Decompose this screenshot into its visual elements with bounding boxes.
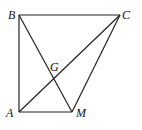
label-g: G bbox=[50, 60, 59, 74]
geometry-diagram: B C G A M bbox=[0, 0, 142, 130]
label-a: A bbox=[5, 106, 14, 120]
label-m: M bbox=[75, 106, 87, 120]
segment-cm bbox=[72, 15, 120, 112]
label-b: B bbox=[8, 8, 16, 22]
segment-bm bbox=[19, 15, 72, 112]
label-c: C bbox=[122, 8, 131, 22]
segment-ac bbox=[19, 15, 120, 112]
